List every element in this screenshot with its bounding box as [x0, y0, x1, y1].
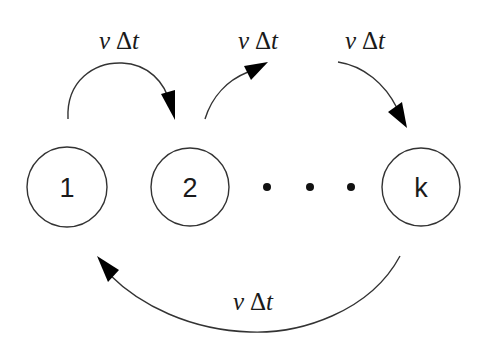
- edge-2-to-next: [205, 72, 248, 119]
- arrowhead-prev-to-k: [388, 102, 407, 128]
- rate-label-2-to-next: νΔt: [238, 27, 279, 54]
- state-label: 2: [182, 173, 197, 203]
- state-cycle-diagram: 1 2 k νΔt νΔt νΔt νΔt: [0, 0, 490, 351]
- ellipsis-dot: [347, 183, 355, 191]
- edge-prev-to-k: [338, 62, 397, 108]
- ellipsis-dot: [263, 183, 271, 191]
- state-node-k: k: [382, 148, 460, 226]
- state-label: k: [414, 173, 428, 203]
- edge-1-to-2: [68, 63, 170, 119]
- ellipsis: [263, 183, 355, 191]
- rate-label-1-to-2: νΔt: [99, 27, 140, 54]
- state-node-1: 1: [27, 147, 107, 227]
- arrowhead-k-to-1: [97, 256, 119, 282]
- state-node-2: 2: [151, 148, 229, 226]
- arrowhead-1-to-2: [161, 90, 175, 120]
- ellipsis-dot: [306, 183, 314, 191]
- state-label: 1: [59, 173, 74, 203]
- rate-label-prev-to-k: νΔt: [345, 27, 386, 54]
- rate-label-k-to-1: νΔt: [233, 288, 274, 315]
- arrowhead-2-to-next: [244, 62, 268, 80]
